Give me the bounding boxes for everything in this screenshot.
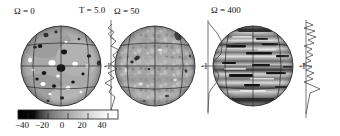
colorbar-group — [18, 110, 118, 119]
panel-label-omega-400: Ω = 400 — [211, 5, 241, 15]
globe-omega-50 — [115, 26, 195, 106]
colorbar-tick-label-3: 20 — [78, 120, 87, 130]
time-label: T = 5.0 — [79, 5, 105, 15]
panel-label-omega-50: Ω = 50 — [114, 6, 139, 16]
globe-omega-0 — [16, 26, 101, 107]
profile-axis-tick-label-omega-0: -1 — [104, 62, 111, 72]
colorbar-tick-labels: −40 −20 0 20 40 — [12, 120, 124, 133]
plot-area — [0, 0, 340, 136]
colorbar-tick-label-1: −20 — [35, 120, 49, 130]
colorbar-tick-label-2: 0 — [60, 120, 65, 130]
panel-label-omega-0: Ω = 0 — [14, 6, 35, 16]
profile-axis-tick-label-omega-400: -1 — [299, 62, 306, 72]
profile-axis-tick-label-omega-50: -1 — [201, 62, 208, 72]
colorbar-tick-label-4: 40 — [98, 120, 107, 130]
colorbar-tick-label-0: −40 — [15, 120, 29, 130]
globe-omega-400 — [213, 26, 293, 106]
figure-canvas: Ω = 0 T = 5.0 Ω = 50 Ω = 400 — [0, 0, 340, 136]
